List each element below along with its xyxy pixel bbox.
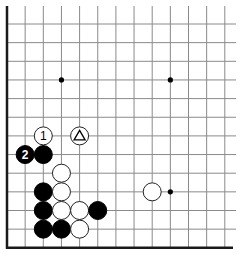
black-stone[interactable] [34, 202, 52, 220]
stone-disc [89, 202, 107, 220]
star-point [168, 189, 173, 194]
stone-disc [34, 202, 52, 220]
white-stone[interactable]: 1 [34, 127, 52, 145]
stone-disc [52, 164, 70, 182]
stone-disc [34, 220, 52, 238]
white-stone[interactable] [52, 183, 70, 201]
stone-disc [52, 183, 70, 201]
black-stone[interactable] [34, 220, 52, 238]
white-stone[interactable] [71, 220, 89, 238]
black-stone[interactable]: 2 [16, 146, 34, 164]
star-point [59, 77, 64, 82]
white-stone[interactable] [71, 202, 89, 220]
go-board: 12 [0, 0, 245, 254]
stones-layer: 12 [16, 127, 161, 238]
white-stone[interactable] [143, 183, 161, 201]
stone-disc [71, 202, 89, 220]
black-stone[interactable] [89, 202, 107, 220]
stone-disc [52, 202, 70, 220]
star-point [168, 77, 173, 82]
black-stone[interactable] [34, 146, 52, 164]
white-stone[interactable] [52, 202, 70, 220]
stone-disc [71, 220, 89, 238]
black-stone[interactable] [52, 220, 70, 238]
stone-disc [52, 220, 70, 238]
white-stone[interactable] [71, 127, 89, 145]
move-number-label: 2 [22, 148, 29, 162]
white-stone[interactable] [52, 164, 70, 182]
stone-disc [143, 183, 161, 201]
stone-disc [34, 146, 52, 164]
move-number-label: 1 [40, 129, 47, 143]
stone-disc [34, 183, 52, 201]
black-stone[interactable] [34, 183, 52, 201]
